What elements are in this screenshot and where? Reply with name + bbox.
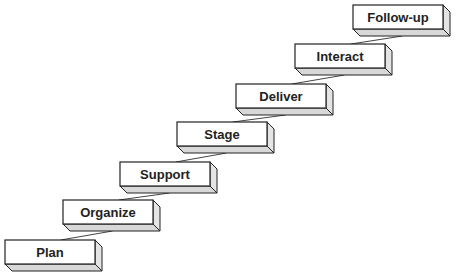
step-connector: [233, 115, 286, 122]
step-label: Deliver: [259, 89, 302, 104]
staircase-diagram: PlanOrganizeSupportStageDeliverInteractF…: [0, 0, 457, 277]
box-bottom-face: [236, 108, 333, 115]
step-box-plan: Plan: [5, 240, 102, 271]
box-bottom-face: [353, 29, 450, 36]
box-bottom-face: [120, 186, 217, 193]
step-box-organize: Organize: [63, 200, 160, 231]
step-label: Stage: [204, 127, 239, 142]
step-box-support: Support: [120, 162, 217, 193]
step-box-follow-up: Follow-up: [353, 5, 450, 36]
box-bottom-face: [63, 224, 160, 231]
step-box-deliver: Deliver: [236, 84, 333, 115]
step-label: Interact: [317, 49, 365, 64]
step-label: Follow-up: [367, 10, 428, 25]
step-connector: [292, 75, 345, 84]
step-box-stage: Stage: [177, 122, 274, 153]
box-bottom-face: [177, 146, 274, 153]
step-label: Plan: [36, 245, 64, 260]
step-connector: [351, 36, 403, 44]
step-connector: [61, 231, 113, 240]
step-connector: [176, 153, 227, 162]
step-box-interact: Interact: [295, 44, 392, 75]
step-connector: [119, 193, 170, 200]
box-bottom-face: [5, 264, 102, 271]
box-bottom-face: [295, 68, 392, 75]
step-label: Organize: [80, 205, 136, 220]
step-label: Support: [140, 167, 190, 182]
